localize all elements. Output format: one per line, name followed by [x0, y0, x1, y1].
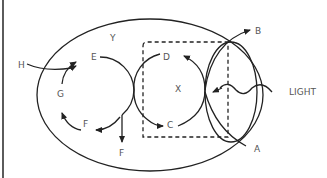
- arrow-to-c: [134, 54, 163, 126]
- left-cycle-arc-e: [100, 57, 134, 115]
- right-lens-ellipse: [205, 42, 257, 142]
- label-f1: F: [83, 119, 88, 129]
- light-arrow: [213, 88, 222, 92]
- arrow-c-to-d: [178, 56, 205, 126]
- label-y: Y: [109, 33, 116, 43]
- arrow-to-f1: [96, 117, 120, 130]
- label-f2: F: [119, 148, 124, 158]
- label-h: H: [18, 60, 25, 70]
- label-x: X: [175, 84, 181, 94]
- label-c: C: [167, 120, 173, 130]
- label-a: A: [254, 144, 261, 154]
- diagram-canvas: Y X E D G F F C H B A LIGHT: [0, 0, 327, 178]
- label-d: D: [163, 52, 170, 62]
- label-g: G: [57, 89, 64, 99]
- label-light: LIGHT: [289, 87, 316, 97]
- label-b: B: [255, 26, 261, 36]
- arrow-h-input: [27, 64, 76, 69]
- arrow-g-to-e: [62, 62, 76, 84]
- line-to-a: [205, 92, 246, 146]
- arrow-to-g: [62, 113, 81, 130]
- label-e: E: [91, 52, 97, 62]
